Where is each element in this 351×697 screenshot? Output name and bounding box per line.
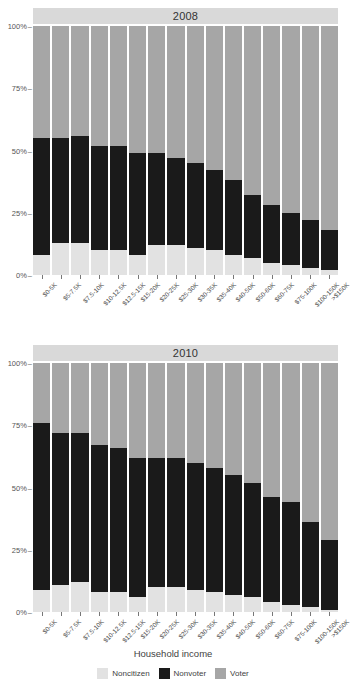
stacked-bar[interactable] — [33, 363, 50, 612]
y-tick-label: 100%– — [8, 22, 32, 31]
bar-segment-noncitizen — [110, 250, 127, 275]
bar-segment-nonvoter — [110, 146, 127, 251]
stacked-bar[interactable] — [244, 26, 261, 275]
stacked-bar[interactable] — [91, 363, 108, 612]
stacked-bar[interactable] — [244, 363, 261, 612]
bar-segment-nonvoter — [129, 458, 146, 597]
bar-segment-noncitizen — [244, 597, 261, 612]
stacked-bar[interactable] — [263, 363, 280, 612]
stacked-bar[interactable] — [129, 26, 146, 275]
stacked-bar[interactable] — [71, 363, 88, 612]
stacked-bar[interactable] — [321, 363, 338, 612]
bar-segment-voter — [91, 363, 108, 445]
stacked-bar[interactable] — [129, 363, 146, 612]
y-tick-label: 0%– — [16, 608, 32, 617]
bar-segment-voter — [225, 26, 242, 180]
bar-segment-noncitizen — [263, 602, 280, 612]
y-tick-label: 25%– — [12, 208, 32, 217]
stacked-bar[interactable] — [225, 26, 242, 275]
bar-segment-voter — [71, 363, 88, 433]
bar-segment-noncitizen — [302, 268, 319, 275]
bar-segment-voter — [321, 26, 338, 230]
bar-segment-voter — [263, 26, 280, 205]
bar-segment-nonvoter — [129, 153, 146, 255]
bar-segment-voter — [71, 26, 88, 136]
panel-strip-2010: 2010 — [33, 345, 338, 361]
stacked-bar[interactable] — [91, 26, 108, 275]
plot-area-2008 — [33, 26, 338, 275]
stacked-bar[interactable] — [148, 363, 165, 612]
bar-segment-nonvoter — [167, 158, 184, 245]
y-tick-label: 100%– — [8, 359, 32, 368]
bar-segment-voter — [129, 363, 146, 458]
legend-swatch-voter — [215, 668, 226, 679]
legend-item-voter[interactable]: Voter — [215, 668, 249, 679]
bar-segment-voter — [33, 363, 50, 423]
stacked-bar[interactable] — [33, 26, 50, 275]
stacked-bar[interactable] — [52, 26, 69, 275]
stacked-bar[interactable] — [110, 26, 127, 275]
bar-segment-voter — [321, 363, 338, 540]
y-tick-label: 25%– — [12, 545, 32, 554]
bar-segment-voter — [187, 26, 204, 163]
stacked-bar[interactable] — [321, 26, 338, 275]
bar-segment-nonvoter — [148, 458, 165, 587]
bar-segment-nonvoter — [33, 138, 50, 255]
stacked-bar[interactable] — [282, 26, 299, 275]
stacked-bar[interactable] — [187, 26, 204, 275]
bar-segment-nonvoter — [263, 205, 280, 262]
plot-area-2010 — [33, 363, 338, 612]
legend-label: Nonvoter — [174, 669, 206, 678]
stacked-bar[interactable] — [71, 26, 88, 275]
bar-segment-nonvoter — [71, 136, 88, 243]
bar-segment-nonvoter — [148, 153, 165, 245]
bar-segment-noncitizen — [91, 250, 108, 275]
bar-segment-noncitizen — [110, 592, 127, 612]
bar-segment-noncitizen — [167, 587, 184, 612]
bar-segment-noncitizen — [206, 250, 223, 275]
bar-segment-nonvoter — [187, 463, 204, 590]
x-tick-label-cell: $7.5-10K — [71, 281, 88, 321]
x-tick-label-cell: $10-12.5K — [91, 281, 108, 321]
legend-item-noncitizen[interactable]: Noncitizen — [97, 668, 149, 679]
stacked-bar[interactable] — [110, 363, 127, 612]
bar-segment-nonvoter — [302, 220, 319, 267]
bar-segment-nonvoter — [52, 138, 69, 243]
stacked-bar[interactable] — [282, 363, 299, 612]
stacked-bar[interactable] — [302, 26, 319, 275]
bar-segment-voter — [302, 26, 319, 220]
bar-segment-noncitizen — [282, 605, 299, 612]
bar-segment-noncitizen — [33, 590, 50, 612]
stacked-bar[interactable] — [167, 26, 184, 275]
legend-item-nonvoter[interactable]: Nonvoter — [159, 668, 206, 679]
x-tick-label-cell: $0-5K — [33, 281, 50, 321]
stacked-bar[interactable] — [206, 363, 223, 612]
bar-segment-voter — [263, 363, 280, 497]
bar-segment-noncitizen — [167, 245, 184, 275]
stacked-bar[interactable] — [167, 363, 184, 612]
bar-segment-nonvoter — [110, 448, 127, 592]
bar-segment-voter — [167, 363, 184, 458]
bar-segment-voter — [52, 26, 69, 138]
stacked-bar[interactable] — [148, 26, 165, 275]
x-tick-label-cell: $100-150K — [302, 281, 319, 321]
x-tick-label: >$150K — [330, 281, 351, 302]
bar-segment-voter — [110, 26, 127, 146]
bar-segment-voter — [282, 363, 299, 502]
bar-segment-nonvoter — [244, 483, 261, 598]
x-tick-label-cell: $35-40K — [206, 281, 223, 321]
stacked-bar[interactable] — [52, 363, 69, 612]
panel-title-2010: 2010 — [173, 347, 198, 359]
bar-segment-noncitizen — [33, 255, 50, 275]
stacked-bar[interactable] — [263, 26, 280, 275]
stacked-bar[interactable] — [225, 363, 242, 612]
x-tick-label-cell: $5-7.5K — [52, 281, 69, 321]
y-tick-label: 50%– — [12, 146, 32, 155]
bar-segment-noncitizen — [52, 243, 69, 275]
x-tick-label-cell: $12.5-15K — [110, 281, 127, 321]
stacked-bar[interactable] — [187, 363, 204, 612]
bar-segment-voter — [206, 363, 223, 468]
stacked-bar[interactable] — [302, 363, 319, 612]
stacked-bar[interactable] — [206, 26, 223, 275]
bar-group-2008 — [33, 26, 338, 275]
